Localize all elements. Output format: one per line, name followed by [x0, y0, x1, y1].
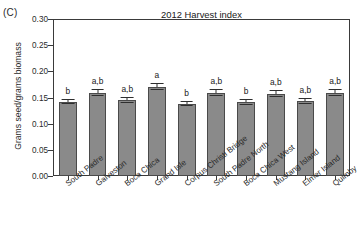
significance-letter: a,b — [270, 77, 282, 87]
bar-group: b — [178, 19, 196, 176]
error-bar-line — [216, 90, 217, 93]
error-bar-line — [127, 98, 128, 101]
bar-series: ba,ba,baba,bba,ba,ba,b — [53, 19, 350, 176]
significance-letter: a,b — [329, 76, 341, 86]
error-bar-cap — [91, 89, 104, 90]
y-tick-label: 0.10 — [18, 119, 48, 128]
error-bar-cap — [180, 101, 193, 102]
error-bar-cap — [329, 89, 342, 90]
bar — [178, 104, 196, 176]
error-bar-lower-cap — [269, 96, 282, 97]
y-tick-label: 0.15 — [18, 93, 48, 102]
error-bar-line — [67, 100, 68, 102]
significance-letter: a,b — [121, 84, 133, 94]
error-bar-line — [186, 102, 187, 104]
error-bar-lower-cap — [299, 103, 312, 104]
significance-letter: b — [244, 86, 249, 96]
error-bar-cap — [61, 99, 74, 100]
y-tick-label: 0.05 — [18, 145, 48, 154]
error-bar-line — [246, 100, 247, 103]
bar-group: a,b — [297, 19, 315, 176]
error-bar-line — [156, 84, 157, 87]
bar — [148, 87, 166, 176]
bar-group: a — [148, 19, 166, 176]
bar — [297, 101, 315, 176]
error-bar-cap — [121, 97, 134, 98]
x-tick-mark — [68, 176, 69, 180]
error-bar-cap — [151, 83, 164, 84]
x-tick-mark — [246, 176, 247, 180]
significance-letter: a,b — [211, 76, 223, 86]
bar — [207, 93, 225, 176]
bar — [267, 94, 285, 176]
x-tick-mark — [127, 176, 128, 180]
y-tick-label: 0.25 — [18, 41, 48, 50]
error-bar-line — [335, 90, 336, 93]
error-bar-line — [97, 90, 98, 93]
bar-group: b — [237, 19, 255, 176]
error-bar-lower-cap — [121, 102, 134, 103]
bar-group: a,b — [89, 19, 107, 176]
bar-group: a,b — [207, 19, 225, 176]
x-tick-mark — [98, 176, 99, 180]
significance-letter: b — [66, 86, 71, 96]
error-bar-cap — [269, 90, 282, 91]
y-tick-mark — [48, 176, 53, 177]
x-tick-mark — [187, 176, 188, 180]
y-tick-label: 0.00 — [18, 172, 48, 181]
x-tick-mark — [216, 176, 217, 180]
significance-letter: a,b — [300, 85, 312, 95]
error-bar-cap — [299, 98, 312, 99]
x-tick-mark — [335, 176, 336, 180]
error-bar-cap — [210, 89, 223, 90]
bar — [237, 102, 255, 176]
x-tick-mark — [157, 176, 158, 180]
y-tick-label: 0.20 — [18, 67, 48, 76]
error-bar-lower-cap — [151, 89, 164, 90]
bar — [118, 100, 136, 176]
significance-letter: a,b — [92, 76, 104, 86]
bar-group: a,b — [326, 19, 344, 176]
error-bar-lower-cap — [91, 95, 104, 96]
error-bar-cap — [240, 99, 253, 100]
bar — [326, 93, 344, 176]
bar-group: a,b — [118, 19, 136, 176]
x-tick-mark — [276, 176, 277, 180]
error-bar-lower-cap — [61, 103, 74, 104]
error-bar-lower-cap — [240, 104, 253, 105]
error-bar-line — [305, 99, 306, 102]
bar — [59, 102, 77, 176]
significance-letter: b — [184, 88, 189, 98]
y-tick-label: 0.30 — [18, 15, 48, 24]
bar — [89, 93, 107, 176]
error-bar-lower-cap — [329, 95, 342, 96]
panel-label: (C) — [3, 7, 17, 18]
error-bar-line — [275, 91, 276, 94]
error-bar-lower-cap — [210, 95, 223, 96]
bar-group: b — [59, 19, 77, 176]
harvest-index-figure: (C) Grams seed/grams biomass 2012 Harves… — [0, 0, 364, 231]
bar-group: a,b — [267, 19, 285, 176]
error-bar-lower-cap — [180, 105, 193, 106]
significance-letter: a — [155, 70, 160, 80]
x-tick-mark — [305, 176, 306, 180]
